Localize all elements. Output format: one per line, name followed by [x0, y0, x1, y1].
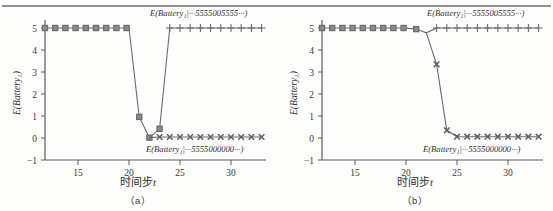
series-lower-markers-b	[434, 62, 542, 140]
series-label-upper-b: E(Battery₁|···5555005555···)	[426, 8, 525, 18]
svg-text:3: 3	[32, 68, 37, 78]
svg-text:4: 4	[32, 46, 37, 56]
svg-text:3: 3	[309, 68, 314, 78]
series-label-lower-b: E(Battery₁|···5555000000···)	[422, 144, 521, 154]
svg-text:4: 4	[309, 46, 314, 56]
svg-text:1: 1	[309, 112, 314, 122]
panel-caption-b: （b）	[277, 193, 553, 207]
series-label-upper-a: E(Battery₁|···5555005555···)	[149, 8, 248, 18]
svg-text:0: 0	[309, 134, 314, 144]
svg-text:5: 5	[32, 24, 37, 34]
y-axis-label-a: E(Battery1)	[11, 71, 24, 116]
x-axis-label-a: 时间步t	[0, 173, 276, 189]
x-axis-label-a-cn: 时间步	[120, 176, 153, 188]
chart-panel-b: 5 4 3 2 1 0 −1 15 20 25 30 E(Battery1)	[277, 0, 553, 211]
y-axis-label-b: E(Battery1)	[288, 71, 301, 116]
series-upper-line-a	[45, 28, 262, 138]
x-ticks-a	[78, 160, 231, 165]
y-ticks-b	[318, 28, 322, 160]
plot-area-a: 5 4 3 2 1 0 −1 15 20 25 30 E(Battery1)	[0, 0, 276, 178]
plot-area-b: 5 4 3 2 1 0 −1 15 20 25 30 E(Battery1)	[277, 0, 553, 178]
svg-text:2: 2	[32, 90, 37, 100]
svg-text:2: 2	[309, 90, 314, 100]
x-axis-label-b-var: t	[430, 177, 433, 188]
svg-text:5: 5	[309, 24, 314, 34]
svg-text:−1: −1	[27, 156, 37, 166]
series-upper-markers-a	[42, 24, 265, 140]
svg-text:1: 1	[32, 112, 37, 122]
svg-text:0: 0	[32, 134, 37, 144]
chart-panel-a: 5 4 3 2 1 0 −1 15 20 25 30 E(Battery1)	[0, 0, 276, 211]
series-label-lower-a: E(Battery₁|···5555000000···)	[145, 144, 244, 154]
figure-root: 5 4 3 2 1 0 −1 15 20 25 30 E(Battery1)	[0, 0, 553, 211]
x-axis-label-b-cn: 时间步	[397, 176, 430, 188]
svg-text:−1: −1	[304, 156, 314, 166]
x-ticks-b	[355, 160, 508, 165]
y-tick-labels-b: 5 4 3 2 1 0 −1	[304, 24, 314, 166]
series-lower-line-a	[149, 137, 261, 138]
panel-caption-a: （a）	[0, 193, 276, 207]
x-axis-label-b: 时间步t	[277, 173, 553, 189]
x-axis-label-a-var: t	[153, 177, 156, 188]
series-lower-line-b	[426, 33, 538, 137]
y-tick-labels-a: 5 4 3 2 1 0 −1	[27, 24, 37, 166]
